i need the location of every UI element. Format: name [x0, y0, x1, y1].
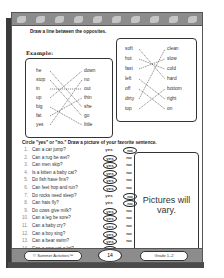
leaf-icon — [36, 16, 45, 23]
yes-option[interactable]: yes — [103, 231, 117, 238]
leaf-icon — [93, 16, 102, 23]
picture-box-text: Pictures will vary. — [142, 195, 192, 215]
yes-option[interactable]: yes — [103, 238, 117, 245]
leaf-icon — [55, 16, 64, 23]
match-word-left: up — [36, 95, 41, 100]
yes-option[interactable]: yes — [103, 147, 115, 152]
question-row: 10.Can a leg be sore?yesno — [22, 215, 142, 222]
question-text: Do cows give milk? — [32, 208, 71, 213]
yes-option[interactable]: yes — [103, 193, 115, 198]
match-word-left: left — [125, 76, 131, 81]
match-word-left: fast — [125, 66, 133, 71]
question-row: 11.Can a baby cry?yesno — [22, 223, 142, 230]
match-word-right: down — [84, 68, 95, 73]
question-row: 7.Do rocks need sleep?yesno — [22, 193, 142, 200]
question-row: 9.Do cows give milk?yesno — [22, 208, 142, 215]
match-word-right: slow — [167, 56, 177, 61]
match-word-left: dirty — [125, 96, 134, 101]
yes-option[interactable]: yes — [103, 155, 117, 162]
question-text: Do fish have fins? — [32, 177, 69, 182]
match-word-right: little — [84, 122, 93, 127]
yes-option[interactable]: yes — [103, 162, 117, 169]
match-word-right: hard — [167, 76, 177, 81]
leaf-icon — [74, 16, 83, 23]
question-number: 8. — [22, 200, 28, 205]
yes-option[interactable]: yes — [103, 170, 117, 177]
question-row: 13.Can a bear swim?yesno — [22, 238, 142, 245]
match-word-right: she — [84, 104, 92, 109]
question-text: Can a boy sing? — [32, 231, 65, 236]
question-text: Can a bear swim? — [32, 238, 69, 243]
yes-option[interactable]: yes — [103, 177, 117, 184]
picture-drawing-box[interactable]: Pictures will vary. — [134, 152, 199, 257]
question-number: 6. — [22, 185, 28, 190]
yes-option[interactable]: yes — [103, 215, 117, 222]
leaf-icon — [169, 16, 178, 23]
question-row: 5.Do fish have fins?yesno — [22, 177, 142, 184]
match-word-right: thin — [84, 95, 92, 100]
match-word-left: soft — [125, 46, 133, 51]
question-text: Is a kitten a baby cat? — [32, 170, 77, 175]
match-word-left: stop — [36, 77, 45, 82]
footer-publisher: © Summer Activities™ — [24, 251, 82, 261]
question-text: Can hats fly? — [32, 200, 59, 205]
example-match-box: hestopinupbigfatyesdownnooutthinshegolit… — [25, 58, 113, 138]
match-word-right: go — [84, 113, 89, 118]
opposites-match-box: softhotfastleftoffdirtytopcleanslowcoldh… — [116, 38, 197, 122]
match-word-left: fat — [36, 113, 41, 118]
page-number: 14 — [98, 249, 122, 262]
match-word-right: bottom — [167, 86, 182, 91]
question-number: 10. — [22, 215, 28, 220]
question-number: 5. — [22, 177, 28, 182]
question-text: Can a car jump? — [32, 147, 66, 152]
match-word-right: cold — [167, 66, 176, 71]
leaf-icon — [150, 16, 159, 23]
match-word-left: off — [125, 86, 130, 91]
yes-option[interactable]: yes — [103, 208, 117, 215]
question-text: Can feet hop and run? — [32, 185, 78, 190]
yes-no-instruction: Circle "yes" or "no." Draw a picture of … — [22, 140, 157, 145]
match-word-left: yes — [36, 122, 43, 127]
question-text: Can a baby cry? — [32, 223, 65, 228]
question-text: Can men skip? — [32, 162, 63, 167]
leaf-icon — [17, 16, 26, 23]
question-number: 4. — [22, 170, 28, 175]
question-text: Do rocks need sleep? — [32, 193, 76, 198]
question-number: 1. — [22, 147, 28, 152]
match-word-left: he — [36, 68, 41, 73]
match-word-right: no — [84, 77, 89, 82]
question-row: 12.Can a boy sing?yesno — [22, 231, 142, 238]
worksheet-page: Draw a line between the opposites. Examp… — [11, 12, 203, 263]
leaf-icon — [112, 16, 121, 23]
question-row: 3.Can men skip?yesno — [22, 162, 142, 169]
question-row: 8.Can hats fly?yesno — [22, 200, 142, 207]
match-word-right: out — [84, 86, 91, 91]
yes-option[interactable]: yes — [103, 185, 117, 192]
question-text: Can a rug be wet? — [32, 155, 70, 160]
question-number: 12. — [22, 231, 28, 236]
question-number: 13. — [22, 238, 28, 243]
question-number: 11. — [22, 223, 28, 228]
footer-band: © Summer Activities™ 14 Grade 1–2 — [12, 248, 202, 262]
yes-option[interactable]: yes — [103, 223, 117, 230]
yes-option[interactable]: yes — [103, 200, 115, 205]
question-number: 3. — [22, 162, 28, 167]
example-label: Example: — [26, 50, 53, 56]
question-row: 2.Can a rug be wet?yesno — [22, 155, 142, 162]
question-number: 9. — [22, 208, 28, 213]
leaf-icon — [188, 16, 197, 23]
match-word-right: clean — [167, 46, 178, 51]
leaf-icon — [131, 16, 140, 23]
match-word-left: hot — [125, 56, 132, 61]
match-word-right: right — [167, 96, 176, 101]
footer-grade: Grade 1–2 — [140, 251, 188, 261]
question-row: 1.Can a car jump?yesno — [22, 147, 142, 154]
question-number: 2. — [22, 155, 28, 160]
question-text: Can a leg be sore? — [32, 215, 71, 220]
match-word-right: on — [167, 106, 172, 111]
match-word-left: in — [36, 86, 40, 91]
match-word-left: big — [36, 104, 42, 109]
question-row: 4.Is a kitten a baby cat?yesno — [22, 170, 142, 177]
leaf-border-header — [12, 13, 202, 26]
question-number: 7. — [22, 193, 28, 198]
